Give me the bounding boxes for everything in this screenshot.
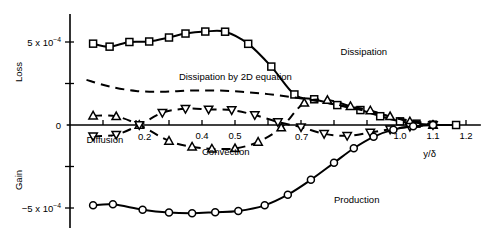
data-point-diffusion-6: [228, 107, 236, 115]
data-point-production-10: [331, 159, 338, 166]
annotation-convection: Convection: [202, 146, 250, 157]
data-point-convection-10: [323, 96, 331, 104]
data-point-dissipation-18: [453, 122, 460, 129]
x-axis-title: y/δ: [423, 148, 436, 159]
annotation-production: Production: [334, 194, 379, 205]
y-axis-gain-label: Gain: [13, 170, 24, 190]
data-point-diffusion-3: [158, 110, 166, 118]
annotation-dissipation-by-2d-equation: Dissipation by 2D equation: [179, 71, 292, 82]
data-point-production-5: [212, 209, 219, 216]
data-point-dissipation-8: [245, 40, 252, 47]
data-point-dissipation-4: [166, 34, 173, 41]
annotation-dissipation: Dissipation: [341, 46, 387, 57]
data-point-production-15: [430, 122, 437, 129]
data-point-dissipation-9: [268, 63, 275, 70]
x-tick-label-0.2: 0.2: [138, 131, 151, 142]
data-point-diffusion-11: [343, 133, 351, 141]
chart-svg: 0.20.40.50.71.01.11.2 DissipationDissipa…: [0, 0, 502, 235]
series-layer: [87, 28, 460, 217]
data-point-convection-12: [366, 106, 374, 114]
data-point-diffusion-10: [320, 131, 328, 139]
data-point-dissipation-1: [106, 43, 113, 50]
data-point-production-8: [284, 191, 291, 198]
data-point-production-3: [166, 209, 173, 216]
data-point-convection-11: [346, 102, 354, 110]
data-point-production-0: [90, 202, 97, 209]
data-point-convection-13: [386, 112, 394, 120]
data-point-diffusion-5: [204, 106, 212, 114]
y-axis-zero-tick-label: 0: [56, 120, 61, 131]
chart-figure: 0.20.40.50.71.01.11.2 DissipationDissipa…: [0, 0, 502, 235]
data-point-production-9: [307, 176, 314, 183]
x-tick-label-0.7: 0.7: [295, 131, 308, 142]
y-axis-top-tick-label: 5 x 10−4: [27, 36, 61, 48]
data-point-production-11: [350, 145, 357, 152]
data-point-production-12: [370, 133, 377, 140]
data-point-production-14: [410, 123, 417, 130]
data-point-dissipation-6: [202, 28, 209, 35]
x-tick-label-1.2: 1.2: [459, 130, 472, 141]
data-point-convection-0: [89, 111, 97, 119]
data-point-production-4: [189, 210, 196, 217]
data-point-dissipation-7: [222, 28, 229, 35]
data-point-production-1: [109, 201, 116, 208]
data-point-production-2: [139, 206, 146, 213]
data-point-convection-1: [112, 112, 120, 120]
y-axis-bottom-tick-label: −5 x 10−4: [22, 202, 61, 214]
data-point-diffusion-7: [251, 112, 259, 120]
data-point-convection-7: [254, 138, 262, 146]
data-point-production-7: [261, 202, 268, 209]
x-tick-label-0.4: 0.4: [195, 130, 208, 141]
data-point-dissipation-5: [182, 30, 189, 37]
x-tick-label-1.0: 1.0: [393, 130, 406, 141]
data-point-dissipation-2: [126, 39, 133, 46]
data-point-convection-9: [300, 99, 308, 107]
data-point-dissipation-14: [377, 113, 384, 120]
data-point-convection-3: [165, 137, 173, 145]
annotation-diffusion: Diffusion: [87, 134, 124, 145]
x-tick-label-1.1: 1.1: [426, 130, 439, 141]
data-point-dissipation-3: [146, 38, 153, 45]
x-tick-label-0.5: 0.5: [228, 130, 241, 141]
data-point-diffusion-4: [181, 106, 189, 114]
data-point-production-6: [235, 207, 242, 214]
y-axis-loss-label: Loss: [13, 62, 24, 82]
data-point-dissipation-0: [90, 40, 97, 47]
data-point-convection-4: [188, 142, 196, 150]
tick-labels: 0.20.40.50.71.01.11.2: [138, 130, 473, 142]
